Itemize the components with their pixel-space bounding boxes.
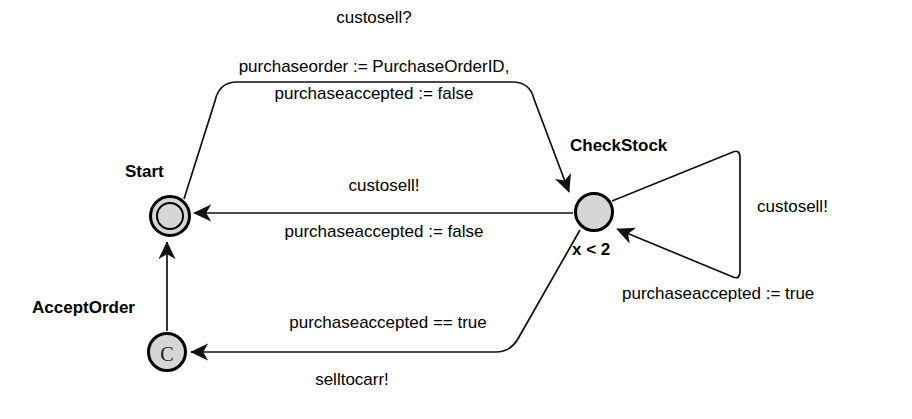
transition-label-loop-assign: purchaseaccepted := true — [622, 284, 814, 304]
state-invariant-checkstock: x < 2 — [572, 240, 610, 260]
transition-label-top-assign-2: purchaseaccepted := false — [275, 84, 474, 104]
edge-checkstock-to-acceptorder — [191, 230, 580, 352]
state-label-start: Start — [125, 162, 164, 182]
committed-marker-icon: C — [150, 344, 184, 364]
transition-label-middle-assign: purchaseaccepted := false — [285, 222, 484, 242]
state-node-start[interactable] — [149, 195, 191, 237]
transition-label-bottom-guard: purchaseaccepted == true — [289, 313, 487, 333]
state-label-checkstock: CheckStock — [570, 136, 667, 156]
transition-label-bottom-sync: selltocarr! — [315, 370, 389, 390]
transition-label-loop-sync: custosell! — [757, 197, 828, 217]
transition-label-top-sync: custosell? — [336, 8, 412, 28]
state-node-acceptorder[interactable]: C — [147, 332, 187, 372]
transition-label-middle-sync: custosell! — [349, 176, 420, 196]
state-node-checkstock[interactable] — [574, 192, 614, 232]
state-label-acceptorder: AcceptOrder — [32, 298, 135, 318]
edge-checkstock-self-loop — [612, 151, 740, 278]
automaton-diagram: Start CheckStock x < 2 C AcceptOrder cus… — [0, 0, 912, 419]
transition-label-top-assign-1: purchaseorder := PurchaseOrderID, — [239, 57, 510, 77]
state-node-start-inner-ring — [156, 202, 184, 230]
